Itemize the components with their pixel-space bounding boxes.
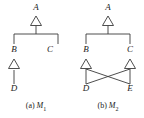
arrowhead-to-b-2 [81, 59, 92, 69]
node-label-a-2: A [102, 3, 114, 12]
arrowhead-to-c-2 [125, 59, 136, 69]
caption-model-subscript: 1 [43, 106, 46, 112]
caption-model-subscript-2: 2 [116, 106, 119, 112]
panel-caption-m2: (b)M2 [72, 101, 144, 114]
panel-caption-m1: (a)M1 [0, 101, 72, 114]
figure-panel-m2: A B C D E (b)M2 [72, 0, 144, 118]
node-label-d-2: D [80, 84, 92, 93]
node-label-a: A [30, 3, 42, 12]
node-label-b-2: B [80, 45, 92, 54]
arrowhead-to-b [9, 59, 20, 69]
figure-panel-m1: A B C D (a)M1 [0, 0, 72, 118]
node-label-e-2: E [124, 84, 136, 93]
caption-model-symbol-2: M [109, 101, 116, 110]
node-label-c-2: C [124, 45, 136, 54]
node-label-c: C [44, 45, 56, 54]
figure-root: A B C D (a)M1 [0, 0, 144, 118]
node-label-b: B [8, 45, 20, 54]
node-label-d: D [8, 84, 20, 93]
arrowhead-to-a-2 [103, 16, 114, 26]
arrowhead-to-a [31, 16, 42, 26]
caption-prefix-2: (b) [98, 101, 107, 110]
caption-prefix: (a) [26, 101, 35, 110]
